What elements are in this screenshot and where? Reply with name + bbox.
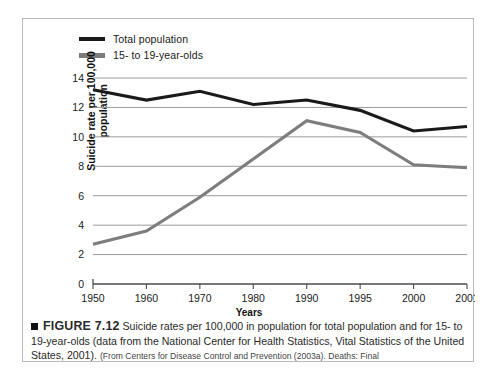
- square-bullet-icon: [31, 323, 38, 330]
- x-tick-label: 1970: [188, 292, 212, 304]
- x-tick-label-group: 19501960197019801990199520002001: [81, 292, 475, 304]
- y-tick-label: 14: [72, 72, 84, 84]
- figure-caption: FIGURE 7.12 Suicide rates per 100,000 in…: [31, 319, 467, 364]
- y-tick-label: 2: [78, 248, 84, 260]
- x-tick-label: 1990: [295, 292, 319, 304]
- x-axis-label: Years: [23, 307, 475, 318]
- line-chart-svg: 02468101214 1950196019701980199019952000…: [23, 19, 475, 319]
- x-tick-label: 1950: [81, 292, 105, 304]
- x-axis-group: [93, 279, 467, 289]
- figure-container: Total population 15- to 19-year-olds Sui…: [22, 18, 474, 362]
- x-tick-label: 1980: [242, 292, 266, 304]
- y-tick-label: 0: [78, 278, 84, 290]
- x-tick-label: 2001: [455, 292, 475, 304]
- y-tick-label: 8: [78, 160, 84, 172]
- y-tick-label: 12: [72, 101, 84, 113]
- x-tick-label: 2000: [402, 292, 426, 304]
- caption-source: (From Centers for Disease Control and Pr…: [100, 351, 379, 361]
- series-line-total-population: [93, 90, 467, 131]
- x-tick-label: 1960: [135, 292, 159, 304]
- y-tick-label: 10: [72, 131, 84, 143]
- y-tick-label: 6: [78, 190, 84, 202]
- series-line-teens: [93, 121, 467, 245]
- data-series-group: [93, 90, 467, 245]
- x-tick-label: 1995: [348, 292, 372, 304]
- y-tick-label: 4: [78, 219, 84, 231]
- figure-number: FIGURE 7.12: [43, 319, 120, 333]
- y-tick-label-group: 02468101214: [72, 72, 84, 290]
